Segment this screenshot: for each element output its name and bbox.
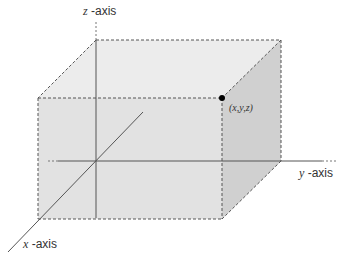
- x-axis-label: x -axis: [22, 237, 57, 251]
- front-face: [38, 98, 222, 219]
- point-marker: [219, 95, 225, 101]
- point-label: (x,y,z): [229, 102, 254, 114]
- y-axis-label: y -axis: [298, 166, 333, 180]
- diagram-canvas: z -axis y -axis x -axis (x,y,z): [0, 0, 344, 266]
- z-axis-label: z -axis: [82, 4, 116, 18]
- coordinate-box-diagram: z -axis y -axis x -axis (x,y,z): [0, 0, 344, 266]
